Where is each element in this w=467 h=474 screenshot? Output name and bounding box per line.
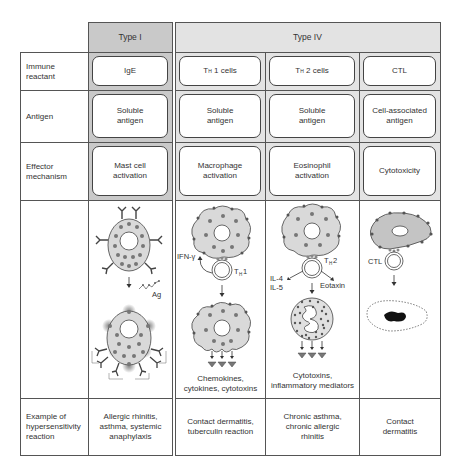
illustration-panel-type1: Ag xyxy=(89,201,172,398)
immune-reactant-th1: TH 1 cells xyxy=(179,56,261,86)
example-th1: Contact dermatitis, tuberculin reaction xyxy=(176,399,265,455)
th2-cell-sub: H xyxy=(329,261,332,266)
illustration-panel-th1: T H 1 IFN-γ Chemokines, cytokines, cytot… xyxy=(176,201,265,398)
antigen-ctl: Cell-associated antigen xyxy=(363,94,436,138)
eotaxin-label: Eotaxin xyxy=(320,281,345,290)
row-label-antigen: Antigen xyxy=(21,91,88,142)
th2-output-label: Cytotoxins, inflammatory mediators xyxy=(266,369,359,393)
th1-cell-sub: H xyxy=(239,272,242,277)
mast-cell-illustration: Ag xyxy=(89,201,172,398)
antigen-type1: Soluble antigen xyxy=(92,94,168,138)
type1-header: Type I xyxy=(88,22,172,52)
cytotoxicity-illustration: CTL xyxy=(360,201,440,398)
immune-reactant-type1: IgE xyxy=(92,56,168,86)
type1-header-label: Type I xyxy=(118,32,141,42)
row-label-effector-mechanism: Effector mechanism xyxy=(21,143,88,200)
effector-type1: Mast cell activation xyxy=(92,146,168,196)
mast-cell-icon: Ag xyxy=(96,207,162,299)
th1-sub: H xyxy=(208,66,212,76)
eosinophil-icon xyxy=(291,298,333,358)
type4-header: Type IV xyxy=(175,22,440,52)
example-th2: Chronic asthma, chronic allergic rhiniti… xyxy=(266,399,359,455)
grid-line xyxy=(175,90,441,91)
immune-reactant-ctl: CTL xyxy=(363,56,436,86)
grid-line xyxy=(175,455,441,456)
effector-th1: Macrophage activation xyxy=(179,146,261,196)
illustration-panel-th2: T H 2 IL-4 IL-5 Eotaxin xyxy=(266,201,359,398)
example-type1: Allergic rhinitis, asthma, systemic anap… xyxy=(89,399,172,455)
ctl-cell-label: CTL xyxy=(368,257,382,266)
immune-reactant-th2: TH 2 cells xyxy=(269,56,355,86)
grid-line xyxy=(440,22,441,455)
activated-mast-cell-icon xyxy=(92,304,166,379)
activated-macrophage-icon xyxy=(192,302,251,367)
grid-line xyxy=(88,22,173,23)
dead-cell-icon xyxy=(367,301,427,331)
th2-cell-num: 2 xyxy=(333,256,337,265)
row-label-example-reaction: Example of hypersensitivity reaction xyxy=(21,399,88,455)
ifn-gamma-label: IFN-γ xyxy=(177,252,196,261)
grid-line xyxy=(20,455,173,456)
illustration-panel-ctl: CTL xyxy=(360,201,440,398)
th1-cell-num: 1 xyxy=(243,267,247,276)
th2-rest: 2 cells xyxy=(306,66,329,76)
grid-line xyxy=(172,22,173,455)
macrophage-illustration: T H 1 IFN-γ xyxy=(176,201,265,398)
th2-sub: H xyxy=(300,66,304,76)
target-cell-icon: CTL xyxy=(368,211,433,286)
il4-label: IL-4 xyxy=(270,274,283,283)
grid-line xyxy=(175,52,441,53)
example-ctl: Contact dermatitis xyxy=(360,399,440,455)
th2-macrophage-icon: T H 2 IL-4 IL-5 Eotaxin xyxy=(270,204,345,294)
th1-rest: 1 cells xyxy=(214,66,237,76)
row-label-immune-reactant: Immune reactant xyxy=(21,53,88,90)
macrophage-icon: T H 1 IFN-γ xyxy=(177,206,251,297)
type4-header-label: Type IV xyxy=(293,32,322,42)
antigen-label: Ag xyxy=(152,290,161,299)
antigen-th2: Soluble antigen xyxy=(269,94,355,138)
effector-ctl: Cytotoxicity xyxy=(363,146,436,196)
grid-line xyxy=(175,142,441,143)
th1-output-label: Chemokines, cytokines, cytotoxins xyxy=(176,372,265,396)
effector-th2: Eosinophil activation xyxy=(269,146,355,196)
il5-label: IL-5 xyxy=(270,283,283,292)
grid-line xyxy=(175,22,441,23)
antigen-th1: Soluble antigen xyxy=(179,94,261,138)
